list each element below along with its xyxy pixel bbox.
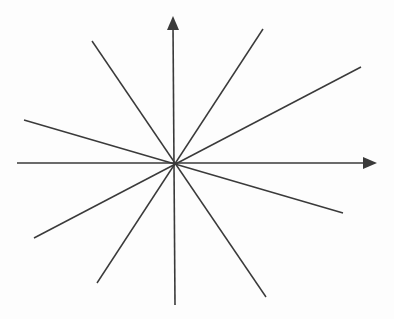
line-2	[97, 29, 263, 283]
diagram-canvas	[0, 0, 394, 319]
axes-group	[17, 16, 377, 305]
y-axis-arrow-icon	[167, 16, 179, 30]
x-axis-arrow-icon	[363, 157, 377, 169]
line-4	[24, 120, 343, 213]
line-3	[34, 67, 361, 238]
line-1	[92, 41, 266, 297]
lines-diagram	[0, 0, 394, 319]
